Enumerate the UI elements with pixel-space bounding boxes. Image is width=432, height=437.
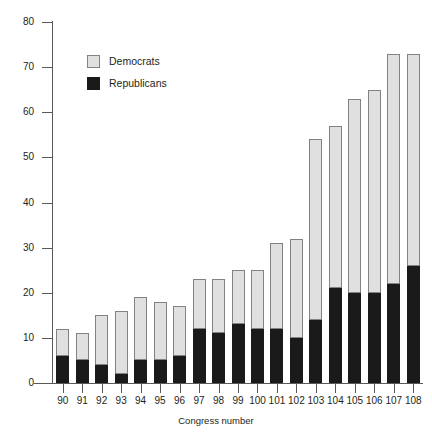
bar-segment-republicans: [154, 360, 167, 383]
bar-group: [368, 90, 381, 383]
y-axis-tick-label: 10: [8, 333, 34, 343]
bar-segment-democrats: [309, 139, 322, 320]
y-axis-tick-label: 30: [8, 243, 34, 253]
bar-segment-republicans: [407, 266, 420, 383]
x-axis-tick: [63, 384, 64, 393]
bar-segment-republicans: [290, 338, 303, 383]
y-axis-tick-label: 60: [8, 107, 34, 117]
x-axis-tick: [219, 384, 220, 393]
bar-group: [76, 333, 89, 383]
y-axis-tick-label-text: 70: [8, 62, 34, 72]
bar-segment-republicans: [368, 293, 381, 383]
bar-segment-democrats: [173, 306, 186, 356]
legend-item-democrats: Democrats: [87, 50, 167, 72]
bar-segment-republicans: [251, 329, 264, 383]
bar-segment-democrats: [232, 270, 245, 324]
bar-group: [212, 279, 225, 383]
bar-group: [309, 139, 322, 383]
bar-segment-democrats: [329, 126, 342, 288]
bar-segment-democrats: [270, 243, 283, 329]
x-axis-tick: [180, 384, 181, 393]
x-axis-tick: [394, 384, 395, 393]
bar-group: [329, 126, 342, 383]
y-axis-tick-label-text: 0: [8, 378, 34, 388]
bar-segment-republicans: [56, 356, 69, 383]
x-axis-tick: [316, 384, 317, 393]
x-axis-tick: [141, 384, 142, 393]
bar-segment-republicans: [348, 293, 361, 383]
bar-group: [173, 306, 186, 383]
bar-segment-democrats: [154, 302, 167, 361]
bar-segment-republicans: [270, 329, 283, 383]
bar-group: [387, 54, 400, 383]
bar-segment-democrats: [134, 297, 147, 360]
legend-label-democrats: Democrats: [109, 55, 160, 67]
bar-segment-republicans: [115, 374, 128, 383]
bar-group: [348, 99, 361, 383]
legend-item-republicans: Republicans: [87, 72, 167, 94]
y-axis-tick-label: 50: [8, 152, 34, 162]
republicans-swatch-icon: [87, 77, 100, 90]
bar-group: [251, 270, 264, 383]
y-axis-tick-label-text: 60: [8, 107, 34, 117]
bar-segment-democrats: [56, 329, 69, 356]
x-axis-tick: [160, 384, 161, 393]
x-axis-tick: [238, 384, 239, 393]
bar-segment-democrats: [193, 279, 206, 329]
bar-segment-democrats: [407, 54, 420, 266]
bar-group: [290, 239, 303, 383]
bar-segment-democrats: [76, 333, 89, 360]
y-axis-tick-label: 0: [8, 378, 34, 388]
bar-segment-democrats: [251, 270, 264, 329]
bar-segment-republicans: [309, 320, 322, 383]
x-axis-tick: [121, 384, 122, 393]
bar-segment-republicans: [76, 360, 89, 383]
y-axis-tick-label-text: 20: [8, 288, 34, 298]
bar-group: [56, 329, 69, 383]
y-axis-tick-label: 40: [8, 198, 34, 208]
democrats-swatch-icon: [87, 55, 100, 68]
y-axis-tick-label: 20: [8, 288, 34, 298]
bar-group: [154, 302, 167, 383]
y-axis-tick-label-text: 30: [8, 243, 34, 253]
x-axis-tick: [374, 384, 375, 393]
bar-segment-democrats: [290, 239, 303, 338]
y-axis-tick-label: 80: [8, 17, 34, 27]
x-axis-line: [34, 383, 423, 384]
stacked-bar-chart: 01020304050607080 9091929394959697989910…: [0, 0, 432, 437]
bar-segment-democrats: [368, 90, 381, 293]
y-axis-tick-label-text: 50: [8, 152, 34, 162]
bar-segment-democrats: [348, 99, 361, 293]
x-axis-tick: [413, 384, 414, 393]
bar-segment-democrats: [212, 279, 225, 333]
bar-group: [270, 243, 283, 383]
bar-segment-republicans: [212, 333, 225, 383]
bar-group: [134, 297, 147, 383]
bar-group: [115, 311, 128, 383]
x-axis-tick: [82, 384, 83, 393]
x-axis-tick: [335, 384, 336, 393]
x-axis-tick: [199, 384, 200, 393]
x-axis-tick: [277, 384, 278, 393]
x-axis-tick-label: 108: [401, 395, 425, 406]
y-axis-tick-label-text: 40: [8, 198, 34, 208]
bar-segment-republicans: [387, 284, 400, 383]
bar-group: [95, 315, 108, 383]
bar-segment-republicans: [193, 329, 206, 383]
x-axis-tick: [296, 384, 297, 393]
chart-legend: Democrats Republicans: [87, 50, 167, 94]
x-axis-tick: [355, 384, 356, 393]
bar-group: [407, 54, 420, 383]
x-axis-tick: [257, 384, 258, 393]
bar-group: [193, 279, 206, 383]
bar-segment-democrats: [387, 54, 400, 284]
x-axis-title: Congress number: [0, 415, 432, 426]
y-axis-tick-label-text: 10: [8, 333, 34, 343]
y-axis-tick-label: 70: [8, 62, 34, 72]
y-axis-tick-label-text: 80: [8, 17, 34, 27]
bar-segment-republicans: [173, 356, 186, 383]
bar-segment-democrats: [115, 311, 128, 374]
bar-segment-republicans: [232, 324, 245, 383]
bar-segment-democrats: [95, 315, 108, 365]
bar-segment-republicans: [134, 360, 147, 383]
